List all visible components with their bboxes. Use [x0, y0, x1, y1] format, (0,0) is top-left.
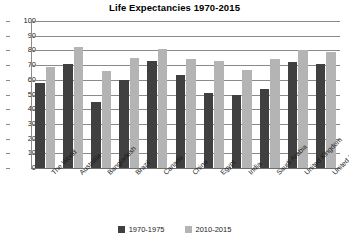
bar [35, 83, 45, 168]
x-axis-label: Saudi Arabia [275, 171, 281, 177]
bar [158, 49, 168, 168]
x-axis-label: China [191, 171, 197, 177]
bar-group [260, 21, 280, 168]
y-tick-mark-80 [6, 50, 10, 51]
x-axis-label: India [247, 171, 253, 177]
bar [186, 59, 196, 168]
x-axis-label: United Kingdom [303, 171, 309, 177]
life-expectancy-bar-chart: Life Expectancies 1970-2015 100908070605… [0, 0, 349, 240]
bar [204, 93, 214, 168]
bar [270, 59, 280, 168]
y-tick-mark-20 [6, 139, 10, 140]
y-tick-mark-60 [6, 80, 10, 81]
legend-label: 1970-1975 [129, 225, 165, 234]
chart-title: Life Expectancies 1970-2015 [0, 2, 349, 13]
legend-swatch [185, 226, 192, 233]
y-tick-mark-90 [6, 36, 10, 37]
bar-group [147, 21, 167, 168]
x-axis-label: Australia [78, 171, 84, 177]
x-axis-label: Bangladesh [106, 171, 112, 177]
legend-label: 2010-2015 [196, 225, 232, 234]
chart-legend: 1970-19752010-2015 [0, 225, 349, 234]
x-axis-label: Egypt [219, 171, 225, 177]
y-tick-mark-10 [6, 153, 10, 154]
y-tick-mark-30 [6, 124, 10, 125]
plot-area [31, 21, 340, 168]
y-tick-mark-40 [6, 109, 10, 110]
y-tick-mark-50 [6, 95, 10, 96]
bar-group [63, 21, 83, 168]
bar-group [232, 21, 252, 168]
bar [242, 70, 252, 168]
x-axis-label: The World [50, 171, 56, 177]
legend-item: 2010-2015 [185, 225, 232, 234]
bar [102, 71, 112, 168]
bar [260, 89, 270, 168]
bar-group [35, 21, 55, 168]
x-axis-label: United States [331, 171, 337, 177]
bar [232, 95, 242, 169]
bar-group [204, 21, 224, 168]
bar-group [91, 21, 111, 168]
bars-layer [31, 21, 340, 168]
y-tick-mark-70 [6, 65, 10, 66]
y-tick-mark-0 [6, 168, 10, 169]
bar [214, 61, 224, 168]
bar [46, 67, 56, 168]
bar [147, 61, 157, 168]
y-tick-mark-100 [6, 21, 10, 22]
bar-group [176, 21, 196, 168]
legend-item: 1970-1975 [118, 225, 165, 234]
x-axis-category-labels: The WorldAustraliaBangladeshBrazilCanada… [31, 169, 340, 215]
x-axis-label: Canada [162, 171, 168, 177]
x-axis-label: Brazil [134, 171, 140, 177]
legend-swatch [118, 226, 125, 233]
